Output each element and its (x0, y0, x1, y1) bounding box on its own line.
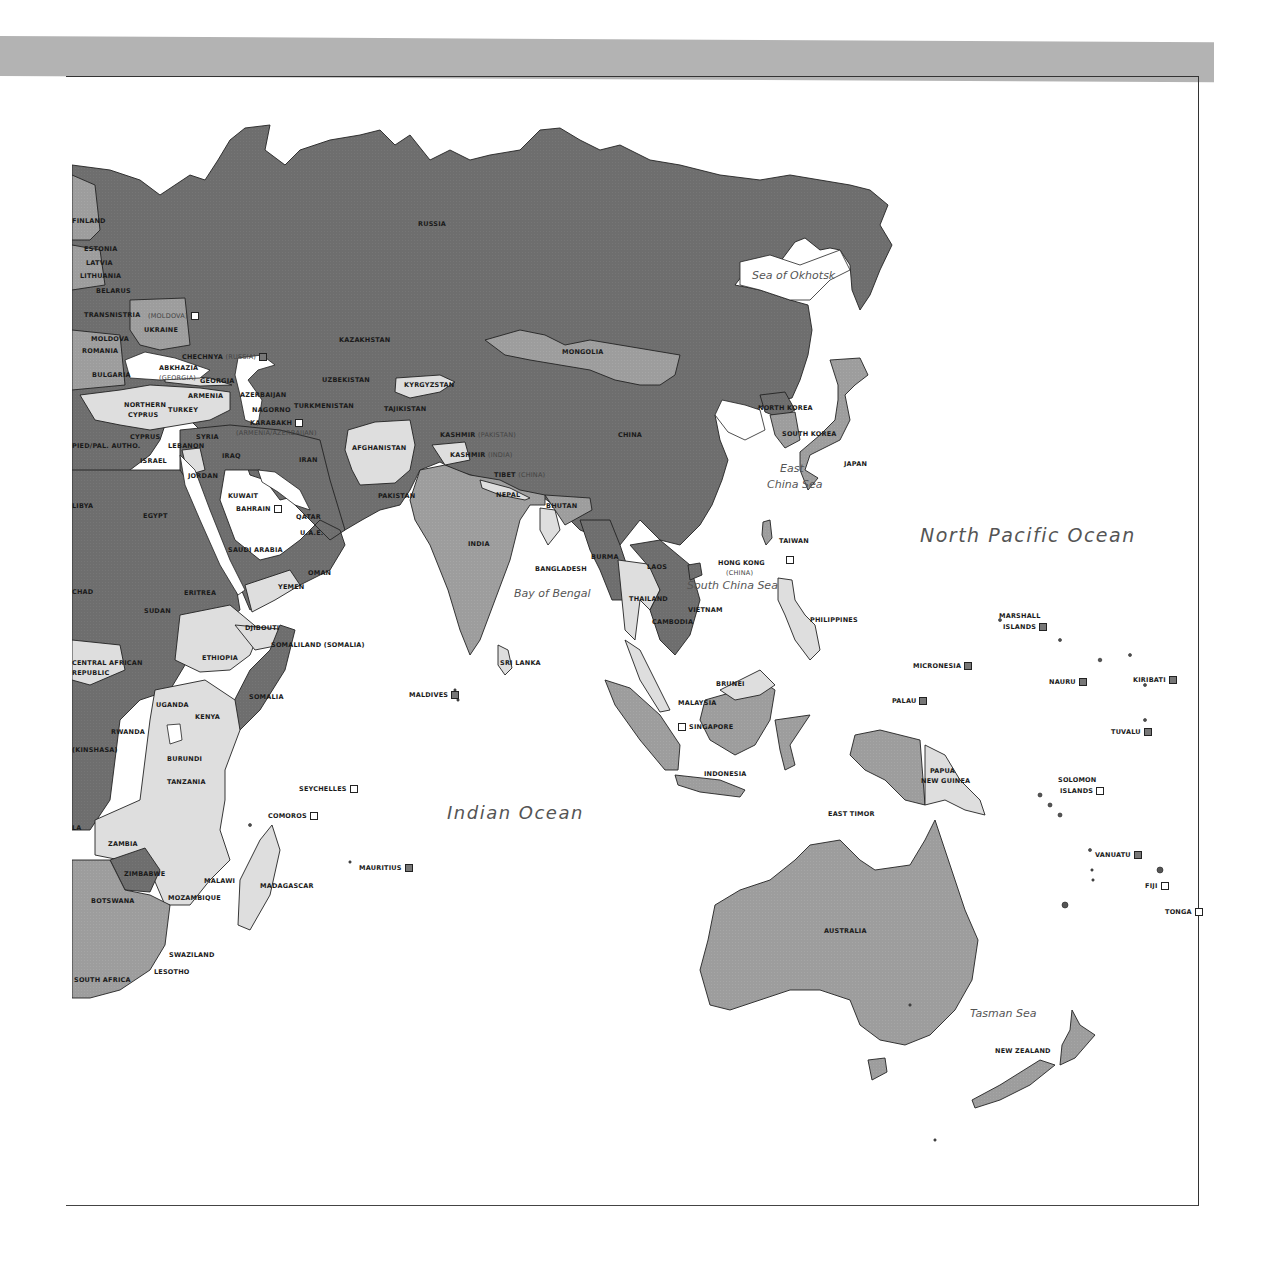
sea-label-tasman: Tasman Sea (970, 1008, 1036, 1020)
label-libya: LIBYA (72, 503, 93, 510)
label-somaliland: SOMALILAND (SOMALIA) (271, 642, 365, 649)
label-armenia: ARMENIA (188, 393, 223, 400)
label-kashmir-pakistan: KASHMIR (PAKISTAN) (440, 432, 516, 439)
label-nagorno-2: KARABAKH (250, 419, 303, 427)
label-solomon-2: ISLANDS (1060, 787, 1104, 795)
label-belarus: BELARUS (96, 288, 131, 295)
label-seychelles: SEYCHELLES (299, 785, 358, 793)
lake-victoria (167, 724, 182, 744)
label-mauritius: MAURITIUS (359, 864, 413, 872)
label-qatar: QATAR (296, 514, 321, 521)
label-turkmenistan: TURKMENISTAN (294, 403, 354, 410)
label-solomon-1: SOLOMON (1058, 777, 1096, 784)
conflict-marker (274, 505, 282, 513)
label-vietnam: VIETNAM (688, 607, 723, 614)
region-hainan (688, 563, 702, 580)
conflict-marker (964, 662, 972, 670)
conflict-marker (678, 723, 686, 731)
label-papua-2: NEW GUINEA (921, 778, 970, 785)
region-java (675, 775, 745, 797)
map-canvas (0, 0, 1268, 1285)
label-taiwan: TAIWAN (779, 538, 809, 545)
label-new-zealand: NEW ZEALAND (995, 1048, 1051, 1055)
label-saudi-arabia: SAUDI ARABIA (228, 547, 283, 554)
label-tajikistan: TAJIKISTAN (384, 406, 426, 413)
label-botswana: BOTSWANA (91, 898, 135, 905)
label-zimbabwe: ZIMBABWE (124, 871, 165, 878)
conflict-marker (350, 785, 358, 793)
conflict-marker (1039, 623, 1047, 631)
label-palau: PALAU (892, 697, 927, 705)
label-pal-autho: PIED/PAL. AUTHO. (72, 443, 141, 450)
label-iraq: IRAQ (222, 453, 241, 460)
label-china: CHINA (618, 432, 642, 439)
label-tonga: TONGA (1165, 908, 1203, 916)
region-india (410, 465, 545, 655)
label-chad: CHAD (72, 589, 93, 596)
label-israel: ISRAEL (140, 458, 167, 465)
label-oman: OMAN (308, 570, 331, 577)
conflict-marker (1169, 676, 1177, 684)
label-nagorno-sub: (ARMENIA/AZERBAIJAN) (236, 430, 317, 437)
label-sri-lanka: SRI LANKA (500, 660, 541, 667)
label-jordan: JORDAN (188, 473, 218, 480)
label-bhutan: BHUTAN (546, 503, 577, 510)
conflict-marker (1161, 882, 1169, 890)
taiwan-marker (786, 556, 794, 564)
region-madagascar (238, 825, 280, 930)
label-south-korea: SOUTH KOREA (782, 431, 837, 438)
label-kyrgyzstan: KYRGYZSTAN (404, 382, 454, 389)
label-cyprus: CYPRUS (130, 434, 160, 441)
label-north-korea: NORTH KOREA (758, 405, 813, 412)
region-sulawesi (775, 715, 810, 770)
label-east-timor: EAST TIMOR (828, 811, 875, 818)
label-tuvalu: TUVALU (1111, 728, 1152, 736)
label-ethiopia: ETHIOPIA (202, 655, 238, 662)
sea-label-okhotsk: Sea of Okhotsk (752, 270, 835, 282)
label-maldives: MALDIVES (409, 691, 459, 699)
label-burundi: BURUNDI (167, 756, 202, 763)
label-uganda: UGANDA (156, 702, 189, 709)
label-south-africa: SOUTH AFRICA (74, 977, 131, 984)
label-car-2: REPUBLIC (72, 670, 109, 677)
label-kuwait: KUWAIT (228, 493, 258, 500)
label-singapore: SINGAPORE (678, 723, 733, 731)
label-malaysia: MALAYSIA (678, 700, 717, 707)
label-turkey: TURKEY (168, 407, 198, 414)
sea-label-bay-of-bengal: Bay of Bengal (514, 588, 590, 600)
label-kiribati: KIRIBATI (1133, 676, 1177, 684)
label-kazakhstan: KAZAKHSTAN (339, 337, 390, 344)
label-japan: JAPAN (844, 461, 867, 468)
label-georgia: GEORGIA (200, 378, 235, 385)
conflict-marker (1195, 908, 1203, 916)
label-northern-cyprus-2: CYPRUS (128, 412, 158, 419)
label-somalia: SOMALIA (249, 694, 284, 701)
label-angola: LA (72, 825, 82, 832)
label-mongolia: MONGOLIA (562, 349, 604, 356)
label-kenya: KENYA (195, 714, 220, 721)
label-kashmir-india: KASHMIR (INDIA) (450, 452, 513, 459)
label-transnistria: TRANSNISTRIA (84, 312, 140, 319)
label-northern-cyprus-1: NORTHERN (124, 402, 166, 409)
label-lithuania: LITHUANIA (80, 273, 121, 280)
region-taiwan (762, 520, 772, 545)
sea-label-east-china-1: East (780, 463, 804, 475)
label-vanuatu: VANUATU (1095, 851, 1142, 859)
label-azerbaijan: AZERBAIJAN (240, 392, 286, 399)
region-new-zealand-south (972, 1060, 1055, 1108)
label-moldova: MOLDOVA (91, 336, 129, 343)
conflict-marker (295, 419, 303, 427)
region-new-zealand-north (1060, 1010, 1095, 1065)
label-rwanda: RWANDA (111, 729, 145, 736)
label-bahrain: BAHRAIN (236, 505, 282, 513)
label-egypt: EGYPT (143, 513, 168, 520)
label-nagorno-1: NAGORNO (252, 407, 291, 414)
label-lesotho: LESOTHO (154, 969, 190, 976)
conflict-marker (1079, 678, 1087, 686)
label-uzbekistan: UZBEKISTAN (322, 377, 370, 384)
label-estonia: ESTONIA (84, 246, 117, 253)
conflict-marker (1134, 851, 1142, 859)
label-djibouti: DJIBOUTI (245, 625, 279, 632)
label-hong-kong-sub: (CHINA) (726, 570, 753, 577)
label-finland: FINLAND (72, 218, 106, 225)
